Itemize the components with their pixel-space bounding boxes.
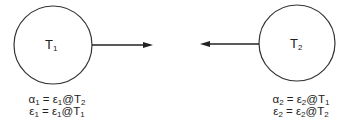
equation: α2 = ε2@T1 [265,93,337,105]
arrow-right-icon [92,42,153,48]
equation: α1 = ε1@T2 [21,93,93,105]
arrow-left-icon [200,41,259,47]
node-t2-equations: α2 = ε2@T1 ε2 = ε2@T2 [265,93,337,117]
node-t2-label: T2 [290,37,302,50]
equation: ε2 = ε2@T2 [265,105,337,117]
node-t1-equations: α1 = ε1@T2 ε1 = ε1@T1 [21,93,93,117]
node-t1-label: T1 [45,38,57,51]
equation: ε1 = ε1@T1 [21,105,93,117]
